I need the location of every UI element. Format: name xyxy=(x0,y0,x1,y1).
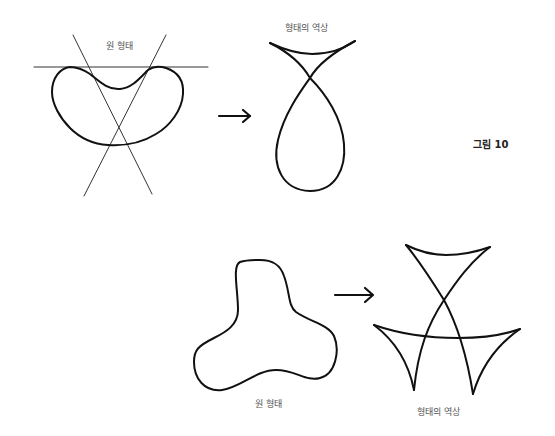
bottom-original-shape xyxy=(194,260,337,390)
diagonal-line-left xyxy=(73,35,152,194)
three-lobed-curve xyxy=(194,260,337,390)
figure-number-label: 그림 10 xyxy=(473,136,508,151)
bottom-inverse-label: 형태의 역상 xyxy=(417,405,460,418)
bottom-arrow-icon xyxy=(335,288,373,302)
top-cusp-arc xyxy=(406,245,490,255)
bottom-inverse-shape xyxy=(374,245,520,394)
bottom-original-label: 원 형태 xyxy=(255,397,282,410)
top-arrow-icon xyxy=(219,110,250,122)
top-inverse-label: 형태의 역상 xyxy=(285,21,328,34)
kidney-curve xyxy=(52,67,183,146)
top-inverse-shape xyxy=(270,41,355,191)
diagram-canvas xyxy=(0,0,555,436)
middle-arc xyxy=(374,325,520,338)
swallowtail-loop xyxy=(270,41,355,191)
right-cusp-curve xyxy=(473,329,520,394)
top-original-label: 원 형태 xyxy=(106,39,133,52)
top-original-shape xyxy=(34,35,208,196)
diagonal-line-right xyxy=(84,35,166,196)
